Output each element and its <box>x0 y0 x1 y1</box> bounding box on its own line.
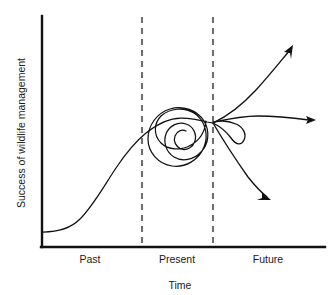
future-optimistic-arrowhead <box>284 45 293 59</box>
present-turbulence-spiral <box>148 108 208 167</box>
wildlife-management-diagram: Past Present Future Time Success of wild… <box>0 0 333 295</box>
trend-line-path <box>43 118 213 232</box>
chart-canvas: Past Present Future Time Success of wild… <box>0 0 333 295</box>
future-steady-path <box>213 116 309 144</box>
historical-trend-curve <box>43 118 213 232</box>
x-tick-label-present: Present <box>159 253 195 265</box>
future-steady-branch <box>213 116 316 144</box>
x-tick-labels-group: Past Present Future <box>79 253 283 265</box>
y-axis-title: Success of wildlife management <box>15 58 27 208</box>
future-declining-branch <box>213 123 271 200</box>
spiral-path <box>148 108 208 167</box>
axes-group <box>41 16 325 247</box>
future-declining-arrowhead <box>257 192 271 200</box>
future-declining-path <box>213 123 267 197</box>
x-tick-label-past: Past <box>79 253 100 265</box>
x-axis-title: Time <box>169 279 192 291</box>
future-optimistic-branch <box>213 45 293 123</box>
future-optimistic-path <box>213 50 290 123</box>
x-tick-label-future: Future <box>253 253 284 265</box>
